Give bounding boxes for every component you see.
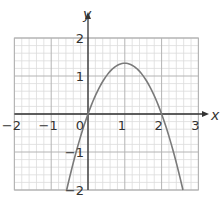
- x-axis-label: x: [210, 107, 220, 123]
- x-tick-label: 3: [191, 118, 199, 133]
- x-axis-arrow-icon: [202, 111, 209, 117]
- x-tick-label: 2: [154, 118, 162, 133]
- y-axis-label: y: [82, 6, 92, 22]
- y-tick-label: 2: [76, 31, 84, 46]
- parabola-chart: −2−10123 21−1−2 x y: [0, 0, 221, 202]
- y-tick-label: −1: [65, 145, 84, 160]
- y-tick-label: −2: [65, 183, 84, 198]
- x-tick-label: −2: [2, 118, 21, 133]
- x-tick-label: 0: [76, 118, 84, 133]
- y-tick-label: 1: [76, 69, 84, 84]
- x-tick-label: 1: [118, 118, 126, 133]
- x-tick-label: −1: [39, 118, 58, 133]
- x-tick-labels: −2−10123: [2, 118, 200, 133]
